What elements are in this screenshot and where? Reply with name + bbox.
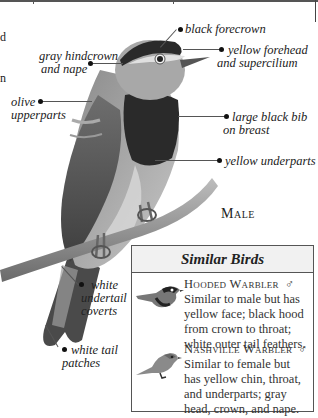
- label-yellow-underparts: yellow underparts: [225, 155, 316, 168]
- label-line: and supercilium: [217, 57, 308, 70]
- callout-dot: [224, 114, 229, 119]
- leader-line: [178, 116, 226, 117]
- male-symbol-icon: ♂: [298, 342, 307, 356]
- callout-dot: [79, 282, 84, 287]
- label-gray-hindcrown: gray hindcrown and nape: [40, 50, 94, 76]
- callout-dot: [62, 347, 67, 352]
- label-line: on breast: [223, 124, 307, 137]
- similar-bird-name-row: Nashville Warbler♂: [184, 342, 312, 357]
- label-line: coverts: [81, 305, 127, 318]
- similar-bird-desc-line: yellow face; black hood: [184, 307, 312, 322]
- similar-birds-title: Similar Birds: [132, 246, 313, 273]
- similar-bird-desc-line: and underparts; gray: [184, 387, 312, 402]
- similar-bird-entry: Nashville Warbler♂ Similar to female but…: [184, 342, 312, 417]
- callout-dot: [219, 47, 224, 52]
- label-olive-upperparts: olive upperparts: [11, 96, 66, 122]
- label-line: and nape: [40, 63, 94, 76]
- similar-bird-name: Nashville Warbler: [184, 342, 292, 356]
- similar-bird-desc-line: from crown to throat;: [184, 322, 312, 337]
- hooded-warbler-thumbnail: [134, 276, 184, 316]
- male-symbol-icon: ♂: [285, 277, 294, 291]
- callout-dot: [178, 27, 183, 32]
- label-black-forecrown: black forecrown: [185, 23, 266, 36]
- label-line: patches: [62, 357, 118, 370]
- similar-bird-desc-line: has yellow chin, throat,: [184, 372, 312, 387]
- similar-bird-desc-line: head, crown, and nape.: [184, 402, 312, 417]
- label-white-undertail-coverts: white undertail coverts: [86, 279, 127, 318]
- leader-line: [183, 49, 220, 50]
- leader-line: [93, 63, 123, 64]
- nashville-warbler-thumbnail: [134, 343, 184, 383]
- label-white-tail-patches: white tail patches: [69, 344, 118, 370]
- leader-line: [155, 160, 219, 161]
- similar-bird-name: Hooded Warbler: [184, 277, 279, 291]
- similar-bird-entry: Hooded Warbler♂ Similar to male but has …: [184, 277, 312, 352]
- callout-dot: [217, 158, 222, 163]
- sex-label: Male: [221, 206, 255, 222]
- label-yellow-forehead: yellow forehead and supercilium: [226, 44, 308, 70]
- similar-bird-desc-line: Similar to female but: [184, 357, 312, 372]
- similar-birds-panel: Similar Birds Hooded Warbler♂ Similar to…: [131, 245, 314, 412]
- similar-bird-name-row: Hooded Warbler♂: [184, 277, 312, 292]
- label-black-bib: large black bib on breast: [232, 111, 307, 137]
- label-line: upperparts: [11, 109, 66, 122]
- label-line: gray hindcrown: [39, 50, 93, 63]
- similar-bird-desc-line: Similar to male but has: [184, 292, 312, 307]
